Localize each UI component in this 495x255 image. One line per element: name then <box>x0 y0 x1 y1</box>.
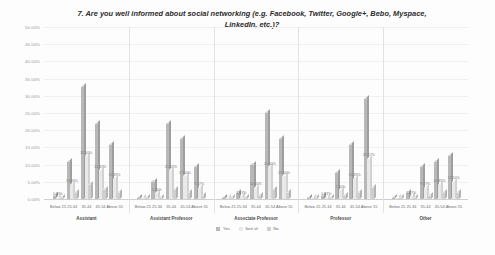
bar: 12.50% <box>452 182 455 199</box>
bar-group: AssistantBelow 250.83%25-3410.83%35-4432… <box>44 27 129 199</box>
group-axis-label: Assistant Professor <box>129 216 214 221</box>
bar <box>137 198 140 199</box>
bar: 17.50% <box>282 176 285 199</box>
y-axis-tick-label: 45.00% <box>6 42 40 47</box>
bar <box>357 193 360 199</box>
y-axis-tick-label: 20.00% <box>6 128 40 133</box>
group-axis-label: Other <box>383 216 468 221</box>
bar: 9.17% <box>424 188 427 199</box>
bar: 7.50% <box>339 190 342 199</box>
bar <box>343 196 346 199</box>
bar <box>201 196 204 199</box>
group-axis-label: Associate Professor <box>214 216 299 221</box>
bar <box>74 193 77 199</box>
legend-swatch-icon <box>216 227 220 231</box>
category-slot: 35-4432.50% <box>79 27 93 199</box>
group-separator <box>129 27 130 213</box>
bar-group: ProfessorBelow 2525-340.83%35-447.50%45-… <box>298 27 383 199</box>
category-slot: 25-3410.83% <box>65 27 79 199</box>
bar <box>279 139 282 199</box>
category-axis-label: Above 55 <box>186 204 212 209</box>
category-slot: 25-340.83% <box>320 27 334 199</box>
category-slot: Below 25 <box>305 27 319 199</box>
bar <box>102 190 105 199</box>
bar-side-face <box>374 184 376 199</box>
legend-label: Yes <box>223 226 230 231</box>
bar <box>456 193 459 199</box>
legend-item[interactable]: No <box>267 226 279 231</box>
legend-swatch-icon <box>267 227 271 231</box>
category-axis-label: Above 55 <box>102 204 128 209</box>
bar <box>222 198 225 199</box>
bar <box>81 87 84 199</box>
category-slot: Below 25 <box>390 27 404 199</box>
group-separator <box>214 27 215 213</box>
bar <box>427 196 430 199</box>
bar <box>349 145 352 199</box>
y-axis-tick-label: 25.00% <box>6 111 40 116</box>
category-axis-label: Above 55 <box>271 204 297 209</box>
bar <box>166 124 169 199</box>
bar: 15.83% <box>353 179 356 199</box>
bar <box>88 185 91 199</box>
legend-item[interactable]: Sort of <box>239 226 258 231</box>
bar <box>109 145 112 199</box>
bar: 10.00% <box>254 188 257 199</box>
legend-item[interactable]: Yes <box>216 226 229 231</box>
y-axis-tick-label: 0.00% <box>6 197 40 202</box>
y-axis-tick-label: 30.00% <box>6 94 40 99</box>
bar-side-face <box>289 189 291 199</box>
category-slot: Above 5529.17% <box>362 27 376 199</box>
bar: 9.17% <box>198 188 201 199</box>
bar <box>314 198 317 199</box>
bar <box>413 198 416 199</box>
group-axis-label: Professor <box>298 216 383 221</box>
bar: 17.50% <box>183 176 186 199</box>
bar-group: Assistant ProfessorBelow 2525-345.00%35-… <box>129 27 214 199</box>
bar <box>364 99 367 199</box>
bar <box>244 198 247 199</box>
bar-value-label: 12.50% <box>443 176 464 180</box>
category-slot: 25-345.00% <box>150 27 164 199</box>
bar <box>395 198 398 199</box>
category-slot: Above 5512.50% <box>447 27 461 199</box>
bar <box>226 198 229 199</box>
bar <box>371 188 374 199</box>
axis-baseline <box>44 199 468 200</box>
category-axis-label: Above 55 <box>356 204 382 209</box>
bar <box>307 198 310 199</box>
category-slot: 25-341.67% <box>235 27 249 199</box>
bar <box>145 198 148 199</box>
bar <box>442 193 445 199</box>
y-axis-tick-label: 5.00% <box>6 180 40 185</box>
bar-side-face <box>459 189 461 199</box>
bar <box>258 196 261 199</box>
category-slot: Above 5517.50% <box>277 27 291 199</box>
bar <box>286 193 289 199</box>
bar: 10.83% <box>438 185 441 199</box>
plot-frame: 50.00%45.00%40.00%35.00%30.00%25.00%20.0… <box>44 27 468 199</box>
bar: 25.00% <box>268 167 271 199</box>
bar-value-label: 9.17% <box>189 182 210 186</box>
bar <box>117 193 120 199</box>
category-slot: Above 5515.83% <box>108 27 122 199</box>
chart-legend: YesSort ofNo <box>0 226 495 231</box>
bar <box>392 198 395 199</box>
bar <box>399 198 402 199</box>
chart-figure: 7. Are you well informed about social ne… <box>0 0 495 255</box>
category-slot: Above 559.17% <box>192 27 206 199</box>
category-slot: 35-4410.00% <box>249 27 263 199</box>
bar: 21.67% <box>99 170 102 199</box>
y-axis-tick-label: 35.00% <box>6 76 40 81</box>
bar-group: Associate ProfessorBelow 2525-341.67%35-… <box>214 27 299 199</box>
bar <box>60 198 63 199</box>
bar-side-face <box>120 189 122 199</box>
y-axis-tick-label: 10.00% <box>6 162 40 167</box>
category-slot: 35-449.17% <box>419 27 433 199</box>
bar <box>311 198 314 199</box>
bar <box>272 190 275 199</box>
legend-label: No <box>273 226 278 231</box>
bar <box>180 139 183 199</box>
bar <box>328 198 331 199</box>
bar: 29.17% <box>367 159 370 199</box>
